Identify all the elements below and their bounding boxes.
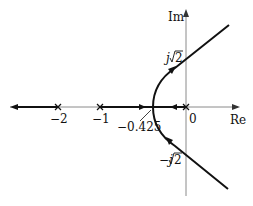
locus-arrow-left2-icon [170, 104, 177, 110]
tick-label-minus-two: −2 [50, 113, 68, 125]
locus-arrow-right-icon [139, 104, 146, 110]
tick-label-zero: 0 [189, 113, 197, 125]
imag-axis-label: Im [168, 11, 184, 23]
upper-crossing-j: j [166, 52, 170, 64]
breakaway-label: −0.425 [117, 121, 161, 133]
lower-crossing-j: −j [159, 154, 173, 166]
lower-crossing-value: 2 [174, 154, 182, 166]
real-axis-label: Re [230, 114, 246, 126]
real-axis-arrow-icon [232, 104, 240, 110]
locus-upper-branch [153, 25, 229, 107]
locus-arrow-left-icon [10, 104, 18, 110]
tick-label-minus-one: −1 [92, 113, 110, 125]
root-locus-plot [0, 0, 253, 206]
upper-crossing-value: 2 [175, 52, 183, 64]
